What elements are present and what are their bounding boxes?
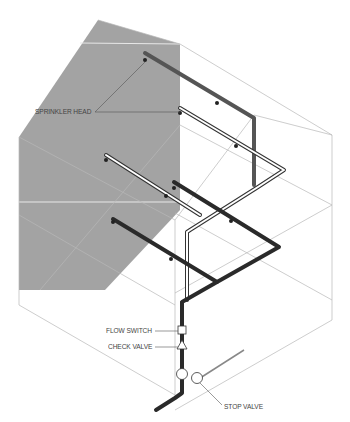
- sprinkler-head-label: SPRINKLER HEAD: [35, 107, 91, 116]
- check-valve-label: CHECK VALVE: [108, 342, 152, 351]
- stop-valve-symbol-riser: [177, 369, 188, 380]
- diagram-canvas: [0, 0, 350, 422]
- pipe-branch-light-upper: [178, 108, 284, 300]
- stop-valve-label: STOP VALVE: [224, 402, 263, 411]
- stop-valve-symbol: [192, 373, 203, 384]
- sprinkler-system-diagram: SPRINKLER HEAD FLOW SWITCH CHECK VALVE S…: [0, 0, 350, 422]
- flow-switch-label: FLOW SWITCH: [106, 326, 152, 335]
- check-valve-symbol: [177, 340, 187, 349]
- main-riser-pipe: [156, 302, 182, 410]
- flow-switch-symbol: [178, 326, 186, 334]
